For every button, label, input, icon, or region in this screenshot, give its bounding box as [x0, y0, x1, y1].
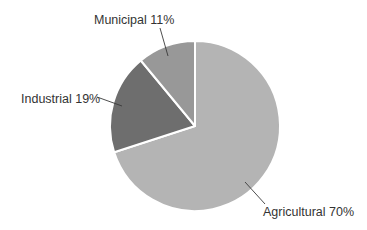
label-agricultural: Agricultural 70%: [263, 205, 354, 219]
pie-slices: [110, 41, 280, 211]
pie-chart: Agricultural 70% Industrial 19% Municipa…: [0, 0, 367, 230]
label-municipal: Municipal 11%: [94, 13, 174, 27]
label-industrial: Industrial 19%: [21, 92, 100, 106]
